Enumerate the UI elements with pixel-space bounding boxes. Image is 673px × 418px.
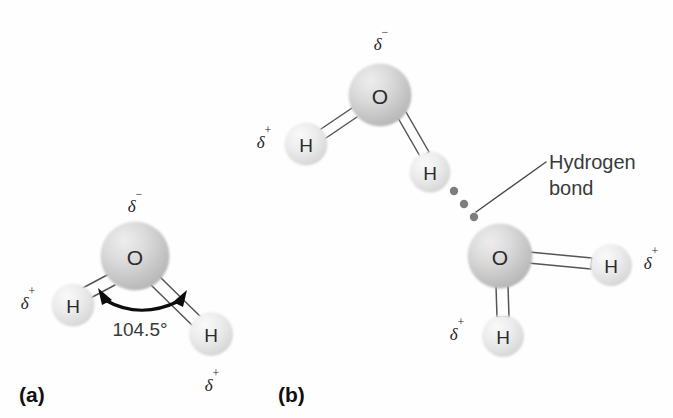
water-hydrogen-bond-diagram: O H H δ− δ+ δ+ 10 bbox=[0, 0, 673, 418]
hydrogen-atom-top-left: H bbox=[285, 123, 328, 166]
hydrogen-symbol: H bbox=[604, 256, 618, 277]
oxygen-symbol: O bbox=[127, 246, 143, 269]
hydrogen-symbol: H bbox=[204, 325, 218, 346]
oxygen-atom-top: O bbox=[349, 64, 412, 127]
oxygen-symbol: O bbox=[492, 246, 508, 269]
hydrogen-bond-dot bbox=[470, 213, 478, 221]
panel-a-oxygen-atom: O bbox=[101, 222, 170, 291]
hydrogen-bond-callout-line2: bond bbox=[549, 177, 594, 199]
hydrogen-atom-bottom-right: H bbox=[590, 244, 632, 286]
figure-root: O H H δ− δ+ δ+ 10 bbox=[0, 0, 673, 418]
hydrogen-atom-bottom-bottom: H bbox=[482, 315, 524, 357]
panel-a-hydrogen-right-atom: H bbox=[189, 312, 233, 356]
hydrogen-bond-dot bbox=[450, 187, 458, 195]
panel-label-b: (b) bbox=[278, 383, 305, 406]
hydrogen-bond-dot bbox=[460, 200, 468, 208]
oxygen-symbol: O bbox=[372, 85, 388, 108]
hydrogen-symbol: H bbox=[496, 327, 510, 348]
hydrogen-atom-top-lower: H bbox=[410, 152, 451, 193]
hydrogen-symbol: H bbox=[66, 296, 80, 317]
canvas-background bbox=[0, 0, 673, 418]
panel-label-a: (a) bbox=[19, 383, 45, 406]
hydrogen-bond-callout-line1: Hydrogen bbox=[549, 151, 636, 173]
hydrogen-symbol: H bbox=[423, 163, 437, 184]
panel-a-hydrogen-left-atom: H bbox=[52, 284, 95, 327]
bond-angle-value: 104.5° bbox=[112, 319, 167, 340]
oxygen-atom-bottom: O bbox=[468, 224, 533, 289]
hydrogen-symbol: H bbox=[299, 135, 313, 156]
